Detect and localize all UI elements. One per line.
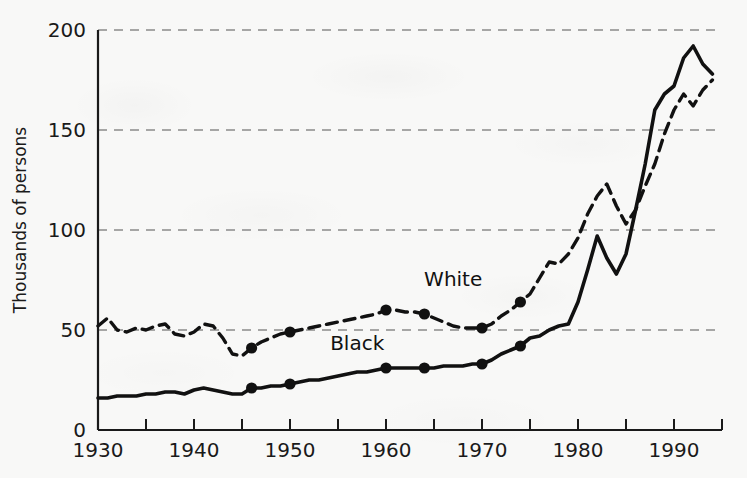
line-chart: 1930194019501960197019801990050100150200…	[0, 0, 747, 478]
gridlines-group	[98, 30, 722, 330]
x-ticks-group	[98, 419, 722, 430]
y-tick-label-100: 100	[48, 218, 86, 242]
series-group	[98, 46, 712, 398]
x-tick-label-1980: 1980	[553, 438, 604, 462]
y-tick-label-0: 0	[73, 418, 86, 442]
series-marker-white-1950	[284, 326, 295, 337]
chart-page: 1930194019501960197019801990050100150200…	[0, 0, 747, 478]
series-marker-white-1974	[515, 296, 526, 307]
series-marker-black-1970	[476, 358, 487, 369]
x-tick-label-1960: 1960	[361, 438, 412, 462]
series-marker-black-1946	[246, 382, 257, 393]
x-tick-label-1970: 1970	[457, 438, 508, 462]
series-marker-white-1964	[419, 308, 430, 319]
series-line-black	[98, 46, 712, 398]
series-marker-black-1950	[284, 378, 295, 389]
series-marker-white-1970	[476, 322, 487, 333]
x-tick-label-1940: 1940	[169, 438, 220, 462]
series-label-white: White	[424, 267, 482, 291]
y-tick-label-50: 50	[61, 318, 86, 342]
series-marker-black-1960	[380, 362, 391, 373]
y-tick-label-200: 200	[48, 18, 86, 42]
series-line-white	[98, 80, 712, 356]
series-label-black: Black	[330, 331, 385, 355]
series-marker-white-1960	[380, 304, 391, 315]
x-tick-label-1990: 1990	[649, 438, 700, 462]
y-axis-title: Thousands of persons	[10, 127, 30, 314]
series-marker-black-1964	[419, 362, 430, 373]
series-marker-white-1946	[246, 342, 257, 353]
x-tick-label-1950: 1950	[265, 438, 316, 462]
series-marker-black-1974	[515, 340, 526, 351]
y-tick-label-150: 150	[48, 118, 86, 142]
y-tick-labels-group: 050100150200	[48, 18, 86, 442]
x-tick-labels-group: 1930194019501960197019801990	[73, 438, 700, 462]
